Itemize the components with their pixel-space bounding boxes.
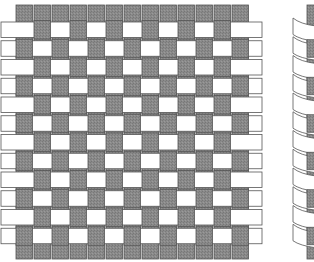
warp-over-crossing [52, 189, 69, 208]
warp-over-crossing [16, 227, 33, 246]
weave-diagram-canvas [0, 0, 314, 262]
warp-over-crossing [106, 58, 123, 77]
warp-over-crossing [196, 77, 213, 96]
warp-over-crossing [214, 171, 231, 190]
warp-over-crossing [70, 96, 87, 115]
flat-weave-panel [1, 5, 262, 259]
warp-over-crossing [124, 227, 141, 246]
warp-over-crossing [124, 189, 141, 208]
warp-over-crossing [307, 77, 314, 95]
warp-over-crossing [178, 133, 195, 152]
warp-over-crossing [214, 133, 231, 152]
warp-over-crossing [88, 189, 105, 208]
warp-over-crossing [88, 114, 105, 133]
warp-over-crossing [88, 39, 105, 58]
warp-over-crossing [16, 39, 33, 58]
warp-over-crossing [52, 227, 69, 246]
warp-over-crossing [232, 39, 249, 58]
warp-over-crossing [232, 189, 249, 208]
warp-over-crossing [178, 208, 195, 227]
warp-over-crossing [34, 208, 51, 227]
warp-over-crossing [52, 152, 69, 171]
warp-over-crossing [70, 133, 87, 152]
warp-over-crossing [160, 114, 177, 133]
warp-over-crossing [16, 152, 33, 171]
warp-over-crossing [106, 171, 123, 190]
warp-over-crossing [160, 227, 177, 246]
warp-over-crossing [106, 133, 123, 152]
warp-over-crossing [88, 227, 105, 246]
warp-over-crossing [178, 96, 195, 115]
warp-over-crossing [34, 171, 51, 190]
warp-over-crossing [214, 96, 231, 115]
warp-over-crossing [196, 189, 213, 208]
warp-over-crossing [142, 133, 159, 152]
warp-over-crossing [70, 171, 87, 190]
warp-over-crossing [214, 208, 231, 227]
warp-over-crossing [52, 114, 69, 133]
warp-over-crossing [124, 39, 141, 58]
warp-over-crossing [106, 208, 123, 227]
warp-over-crossing [160, 77, 177, 96]
warp-over-crossing [106, 96, 123, 115]
warp-over-crossing [196, 152, 213, 171]
warp-over-crossing [142, 96, 159, 115]
warp-over-crossing [232, 114, 249, 133]
warp-over-crossing [124, 152, 141, 171]
warp-over-crossing [160, 189, 177, 208]
warp-over-crossing [196, 227, 213, 246]
warp-over-crossing [34, 58, 51, 77]
warp-over-crossing [142, 171, 159, 190]
warp-over-crossing [232, 77, 249, 96]
warp-over-crossing [232, 152, 249, 171]
warp-over-crossing [16, 77, 33, 96]
warp-over-crossing [307, 40, 314, 58]
warp-over-crossing [160, 152, 177, 171]
warp-over-crossing [16, 189, 33, 208]
warp-over-crossing [34, 96, 51, 115]
warp-over-crossing [307, 190, 314, 208]
warp-over-crossing [34, 133, 51, 152]
warp-over-crossing [214, 21, 231, 40]
warp-over-crossing [196, 114, 213, 133]
curved-weave-panel [293, 5, 314, 259]
warp-over-crossing [124, 77, 141, 96]
warp-over-crossing [178, 58, 195, 77]
warp-over-crossing [16, 114, 33, 133]
warp-over-crossing [232, 227, 249, 246]
warp-over-crossing [88, 152, 105, 171]
warp-over-crossing [52, 39, 69, 58]
weave-figure [0, 0, 314, 262]
warp-over-crossing [142, 21, 159, 40]
warp-over-crossing [307, 227, 314, 245]
warp-over-crossing [52, 77, 69, 96]
warp-over-crossing [307, 152, 314, 170]
warp-over-crossing [178, 171, 195, 190]
warp-over-crossing [307, 115, 314, 133]
warp-over-crossing [178, 21, 195, 40]
warp-over-crossing [70, 208, 87, 227]
warp-over-crossing [124, 114, 141, 133]
warp-over-crossing [88, 77, 105, 96]
warp-over-crossing [160, 39, 177, 58]
warp-over-crossing [196, 39, 213, 58]
warp-over-crossing [142, 58, 159, 77]
warp-over-crossing [70, 58, 87, 77]
warp-over-crossing [106, 21, 123, 40]
warp-over-crossing [142, 208, 159, 227]
warp-over-crossing [34, 21, 51, 40]
warp-over-crossing [214, 58, 231, 77]
warp-over-crossing [70, 21, 87, 40]
